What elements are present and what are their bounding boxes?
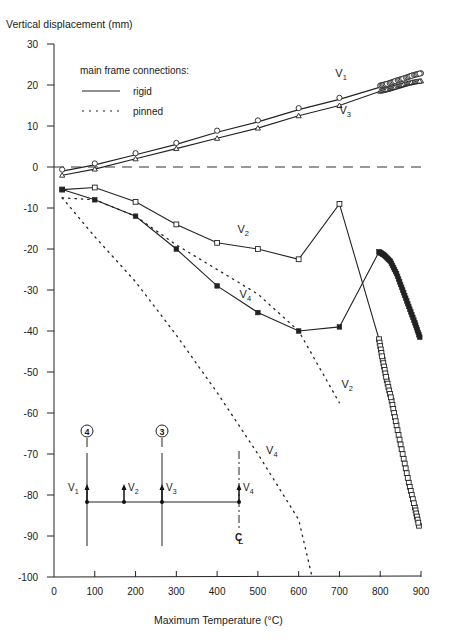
star-marker xyxy=(405,301,410,306)
legend-title: main frame connections: xyxy=(80,65,189,76)
series-label-V4: V4 xyxy=(240,288,252,303)
x-tick-label: 700 xyxy=(331,586,348,597)
x-tick-label: 0 xyxy=(51,586,57,597)
series-V4-rigid xyxy=(60,187,422,339)
series-V1-rigid xyxy=(60,71,424,173)
series-line xyxy=(62,81,421,175)
x-tick-label: 200 xyxy=(127,586,144,597)
star-marker xyxy=(337,325,342,330)
series-line xyxy=(62,198,312,577)
x-tick-label: 300 xyxy=(168,586,185,597)
inset-label-V2: V2 xyxy=(128,482,139,495)
series-label-V1: V1 xyxy=(335,67,347,82)
y-tick-label: 30 xyxy=(27,39,39,50)
star-marker xyxy=(412,318,417,323)
square-marker xyxy=(215,240,220,245)
series-line xyxy=(62,190,420,338)
square-marker xyxy=(133,199,138,204)
series-label-V2: V2 xyxy=(238,223,250,238)
grid-label-4: 4 xyxy=(84,427,89,437)
square-marker xyxy=(397,437,402,442)
y-tick-label: -100 xyxy=(18,572,38,583)
square-marker xyxy=(92,185,97,190)
axes: 3020100-10-20-30-40-50-60-70-80-90-10001… xyxy=(18,39,430,597)
circle-marker xyxy=(133,151,138,156)
y-tick-label: 10 xyxy=(27,121,39,132)
star-marker xyxy=(174,247,179,252)
circle-marker xyxy=(296,106,301,111)
square-marker xyxy=(388,395,393,400)
x-tick-label: 500 xyxy=(250,586,267,597)
square-marker xyxy=(393,419,398,424)
subscript: 1 xyxy=(343,73,347,82)
circle-marker xyxy=(92,161,97,166)
frame-inset-diagram: V1V2V3V443CL xyxy=(68,425,254,546)
y-tick-label: -10 xyxy=(24,203,39,214)
series-line xyxy=(62,188,419,526)
circle-marker xyxy=(255,118,260,123)
square-marker xyxy=(416,520,421,525)
square-marker xyxy=(411,501,416,506)
y-tick-label: -70 xyxy=(24,449,39,460)
subscript: 2 xyxy=(135,488,139,495)
square-marker xyxy=(404,471,409,476)
series-label-V2: V2 xyxy=(341,378,353,393)
square-marker xyxy=(296,257,301,262)
star-marker xyxy=(215,284,220,289)
subscript: 4 xyxy=(273,450,277,459)
subscript: 2 xyxy=(245,229,249,238)
circle-marker xyxy=(174,140,179,145)
circle-marker xyxy=(215,128,220,133)
series-label-V4: V4 xyxy=(266,444,278,459)
square-marker xyxy=(399,447,404,452)
arrowhead xyxy=(237,484,242,490)
y-tick-label: -90 xyxy=(24,531,39,542)
subscript: 2 xyxy=(349,384,353,393)
inset-label-V4: V4 xyxy=(243,482,254,495)
subscript: 3 xyxy=(173,488,177,495)
centerline-subscript: L xyxy=(238,537,243,546)
arrowhead xyxy=(122,484,127,490)
y-tick-label: -20 xyxy=(24,244,39,255)
star-marker xyxy=(256,310,261,315)
square-marker xyxy=(403,466,408,471)
centerline-symbol: CL xyxy=(235,532,243,546)
star-marker xyxy=(417,332,422,337)
y-tick-label: -40 xyxy=(24,326,39,337)
star-marker xyxy=(399,285,404,290)
x-tick-label: 400 xyxy=(209,586,226,597)
arrowhead xyxy=(160,484,165,490)
series-line xyxy=(62,75,421,171)
square-marker xyxy=(395,428,400,433)
data-series xyxy=(60,71,424,577)
y-tick-label: 0 xyxy=(32,162,38,173)
subscript: 4 xyxy=(250,488,254,495)
circle-marker xyxy=(417,71,422,76)
series-label-V3: V3 xyxy=(339,104,351,119)
x-axis-line xyxy=(54,576,421,577)
star-marker xyxy=(60,187,65,192)
subscript: 1 xyxy=(75,488,79,495)
x-tick-label: 900 xyxy=(413,586,430,597)
legend-label-pinned: pinned xyxy=(133,106,163,117)
series-V3-rigid xyxy=(60,78,424,177)
x-tick-label: 600 xyxy=(290,586,307,597)
square-marker xyxy=(398,442,403,447)
subscript: 4 xyxy=(247,294,251,303)
series-V4-pinned xyxy=(62,198,312,577)
y-tick-label: -60 xyxy=(24,408,39,419)
y-tick-label: -80 xyxy=(24,490,39,501)
square-marker xyxy=(401,456,406,461)
square-marker xyxy=(400,452,405,457)
square-marker xyxy=(405,476,410,481)
square-marker xyxy=(174,222,179,227)
square-marker xyxy=(337,202,342,207)
legend-label-rigid: rigid xyxy=(133,86,152,97)
legend: main frame connections:rigidpinned xyxy=(80,65,189,117)
displacement-chart: 3020100-10-20-30-40-50-60-70-80-90-10001… xyxy=(0,0,449,643)
series-V2-rigid xyxy=(60,185,422,528)
y-tick-label: -30 xyxy=(24,285,39,296)
square-marker xyxy=(255,247,260,252)
y-tick-label: -50 xyxy=(24,367,39,378)
y-tick-label: 20 xyxy=(27,80,39,91)
